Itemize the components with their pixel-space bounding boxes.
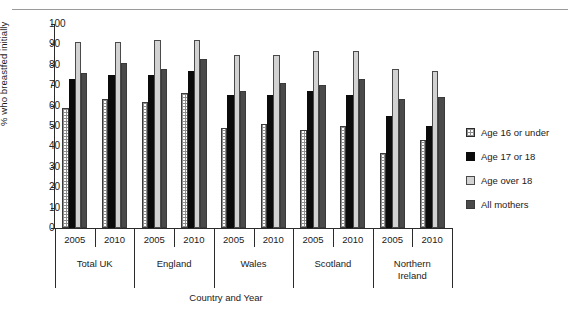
- legend-item: All mothers: [466, 192, 578, 216]
- y-axis-tick-mark: [51, 187, 55, 188]
- y-axis-tick-mark: [51, 126, 55, 127]
- bar: [359, 79, 365, 228]
- x-axis-year-label: 2010: [333, 234, 373, 245]
- y-axis-tick-mark: [51, 65, 55, 66]
- x-axis-year-label: 2005: [214, 234, 254, 245]
- bar: [121, 63, 127, 228]
- x-axis-country-label: Northern Ireland: [373, 258, 452, 281]
- x-axis-country-label: England: [134, 258, 213, 270]
- x-axis-year-label: 2005: [55, 234, 95, 245]
- y-axis-tick-mark: [51, 85, 55, 86]
- bar: [280, 83, 286, 228]
- legend-item: Age over 18: [466, 168, 578, 192]
- legend-swatch-icon: [466, 200, 475, 209]
- legend-item-label: Age 16 or under: [481, 127, 549, 138]
- x-axis-year-label: 2010: [95, 234, 135, 245]
- legend-item-label: Age over 18: [481, 175, 532, 186]
- chart-figure: % who breastfed initially 01020304050607…: [0, 0, 580, 321]
- bar: [161, 69, 167, 228]
- y-axis-tick-mark: [51, 24, 55, 25]
- plot-area: [55, 24, 452, 228]
- legend-item-label: Age 17 or 18: [481, 151, 535, 162]
- y-axis-tick-mark: [51, 106, 55, 107]
- x-axis-year-label: 2005: [373, 234, 413, 245]
- legend-item-label: All mothers: [481, 199, 529, 210]
- x-axis-boundary-line: [452, 228, 453, 288]
- x-axis-year-label: 2005: [134, 234, 174, 245]
- x-axis-year-label: 2010: [412, 234, 452, 245]
- x-axis-country-label: Scotland: [293, 258, 372, 270]
- legend-swatch-icon: [466, 152, 475, 161]
- bar: [399, 99, 405, 228]
- x-axis-country-label: Total UK: [55, 258, 134, 270]
- y-axis-tick-mark: [51, 208, 55, 209]
- bar: [81, 73, 87, 228]
- legend-item: Age 17 or 18: [466, 144, 578, 168]
- top-divider-rule: [12, 9, 568, 10]
- y-axis-tick-mark: [51, 167, 55, 168]
- bar: [438, 97, 444, 228]
- y-axis-tick-mark: [51, 146, 55, 147]
- chart-legend: Age 16 or underAge 17 or 18Age over 18Al…: [466, 120, 578, 216]
- x-axis-year-label: 2010: [254, 234, 294, 245]
- legend-swatch-icon: [466, 128, 475, 137]
- legend-swatch-icon: [466, 176, 475, 185]
- x-axis-title: Country and Year: [0, 292, 452, 303]
- bar: [240, 91, 246, 228]
- bar: [319, 85, 325, 228]
- bar: [200, 59, 206, 228]
- legend-item: Age 16 or under: [466, 120, 578, 144]
- x-axis-country-label: Wales: [214, 258, 293, 270]
- x-axis-year-label: 2010: [174, 234, 214, 245]
- y-axis-tick-mark: [51, 44, 55, 45]
- x-axis-year-label: 2005: [293, 234, 333, 245]
- y-axis-title: % who breastfed initially: [0, 22, 9, 126]
